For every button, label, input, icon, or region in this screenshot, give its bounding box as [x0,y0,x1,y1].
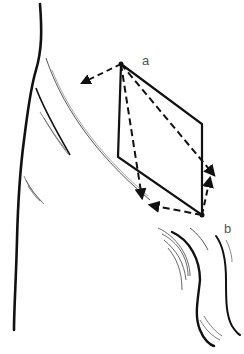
force-parallelogram [118,64,202,215]
label-b: b [224,222,231,235]
body-contour-far-right [216,236,240,335]
body-contour-branch [36,88,70,155]
vertex-a [119,62,124,67]
vector-a-right [121,64,214,175]
vector-a-left [82,64,121,83]
vector-b-up [202,178,210,215]
anatomical-diagram [0,0,244,354]
body-contour-left [14,4,41,330]
vertex-b-corner [200,213,205,218]
label-a: a [142,54,149,67]
fold-line [46,58,150,200]
